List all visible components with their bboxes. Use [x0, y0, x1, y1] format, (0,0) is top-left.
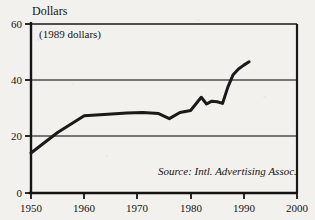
y-tick-label-20: 20 — [0, 131, 22, 142]
source-annotation: Source: Intl. Advertising Assoc. — [158, 166, 297, 177]
x-tick-label-2000: 2000 — [277, 203, 315, 214]
y-tick-label-60: 60 — [0, 19, 22, 30]
y-tick-label-0: 0 — [0, 188, 22, 199]
y-axis-title: Dollars — [32, 5, 67, 17]
units-annotation: (1989 dollars) — [39, 29, 101, 40]
x-tick-label-1980: 1980 — [171, 203, 211, 214]
data-series-line — [31, 62, 249, 153]
chart-figure: Dollars (1989 dollars) Source: Intl. Adv… — [0, 0, 315, 220]
x-tick-label-1960: 1960 — [64, 203, 104, 214]
y-tick-label-40: 40 — [0, 75, 22, 86]
x-tick-label-1950: 1950 — [11, 203, 51, 214]
x-tick-label-1970: 1970 — [117, 203, 157, 214]
x-tick-label-1990: 1990 — [224, 203, 264, 214]
